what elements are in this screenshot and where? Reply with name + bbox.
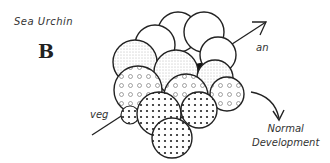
outcome-label: Normal Development	[252, 122, 319, 150]
blastomere	[152, 118, 192, 158]
outcome-line-1: Normal	[252, 122, 319, 136]
blastomere	[181, 92, 217, 128]
vegetal-pole-label: veg	[90, 109, 108, 120]
micromere	[121, 106, 139, 124]
animal-pole-label: an	[256, 42, 268, 53]
outcome-line-2: Development	[252, 136, 319, 150]
